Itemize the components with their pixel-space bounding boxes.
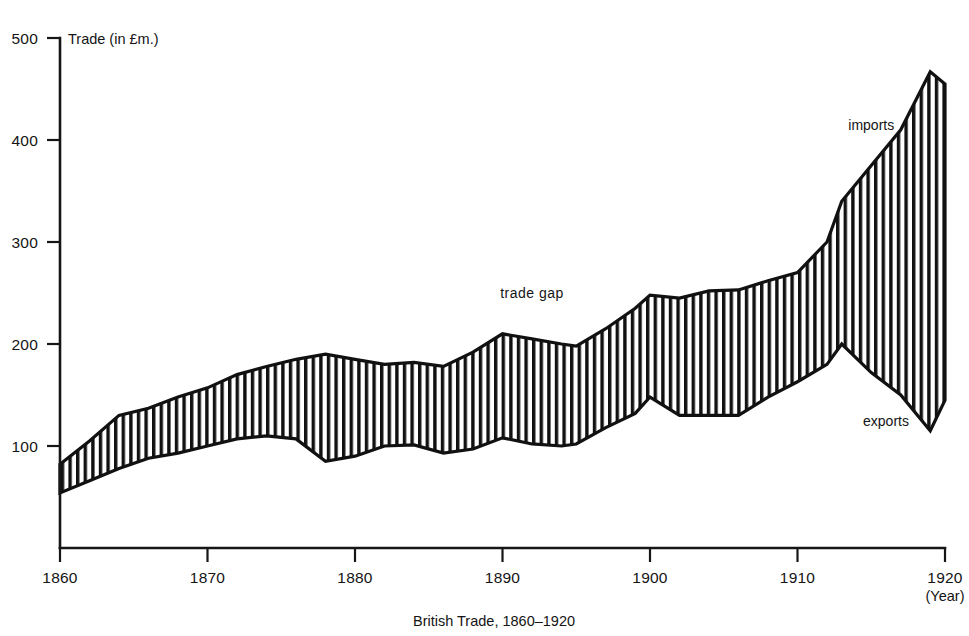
x-tick-label: 1870	[190, 569, 225, 586]
annotation-exports: exports	[863, 413, 909, 429]
chart-caption: British Trade, 1860–1920	[413, 613, 575, 629]
x-tick-label: 1880	[337, 569, 372, 586]
x-tick-label: 1920	[927, 569, 962, 586]
y-tick-label: 300	[12, 234, 39, 251]
trade-chart: 100200300400500 186018701880189019001910…	[0, 0, 969, 636]
chart-svg: 100200300400500 186018701880189019001910…	[0, 0, 969, 636]
plot-area	[60, 72, 945, 493]
y-tick-label: 100	[12, 438, 39, 455]
x-axis-ticks	[60, 548, 945, 562]
x-tick-label: 1900	[632, 569, 667, 586]
y-axis-ticks	[47, 38, 60, 446]
annotation-trade-gap: trade gap	[500, 285, 564, 301]
y-tick-label: 500	[12, 30, 39, 47]
y-tick-label: 400	[12, 132, 39, 149]
x-tick-label: 1910	[780, 569, 815, 586]
annotation-imports: imports	[848, 117, 894, 133]
y-tick-label: 200	[12, 336, 39, 353]
y-axis-title: Trade (in £m.)	[68, 31, 159, 47]
x-tick-label: 1890	[485, 569, 520, 586]
x-axis-tick-labels: 1860187018801890190019101920	[42, 569, 962, 586]
x-tick-label: 1860	[42, 569, 77, 586]
trade-gap-band	[60, 72, 945, 493]
y-axis-tick-labels: 100200300400500	[12, 30, 39, 455]
x-axis-title: (Year)	[926, 588, 965, 604]
